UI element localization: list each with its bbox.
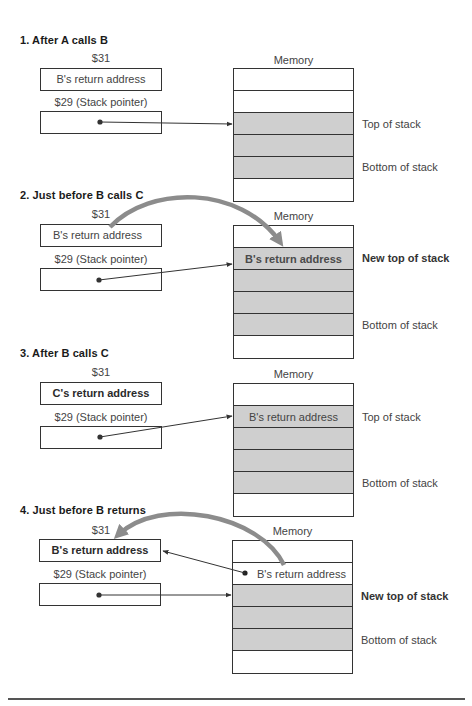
push-return-address-arc xyxy=(110,197,280,242)
arrows-overlay xyxy=(0,0,472,706)
pop-return-address-arc xyxy=(118,514,284,565)
restore-return-address-arrow xyxy=(163,551,248,576)
stack-diagram: 1. After A calls B $31 B's return addres… xyxy=(0,0,472,706)
footer-rule xyxy=(8,698,465,700)
stack-pointer-arrow-2 xyxy=(96,264,232,283)
stack-pointer-arrow-3 xyxy=(97,416,232,440)
stack-pointer-arrow-4 xyxy=(96,592,231,597)
stack-pointer-arrow-1 xyxy=(97,119,232,124)
